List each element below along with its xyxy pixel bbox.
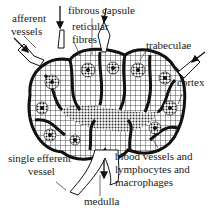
- label-blood-vessels-line2: lymphocytes and: [115, 164, 190, 175]
- node-capsule: [29, 49, 185, 159]
- label-fibrous-capsule: fibrous capsule: [68, 5, 135, 16]
- label-medulla: medulla: [84, 196, 119, 207]
- label-blood-vessels-line1: blood vessels and: [115, 151, 193, 162]
- label-trabeculae: trabeculae: [146, 40, 191, 51]
- label-afferent-vessels-line1: afferent: [12, 13, 46, 24]
- label-blood-vessels-line3: macrophages: [115, 177, 173, 188]
- lymph-node-diagram: afferent vessels fibrous capsule reticul…: [0, 0, 212, 210]
- label-single-efferent-vessel-line2: vessel: [28, 166, 55, 177]
- label-reticular-fibres-line1: reticular: [72, 21, 109, 32]
- label-single-efferent-vessel-line1: single efferent: [8, 153, 71, 164]
- label-reticular-fibres-line2: fibres: [72, 34, 97, 45]
- label-afferent-vessels-line2: vessels: [11, 26, 42, 37]
- label-cortex: cortex: [177, 77, 204, 88]
